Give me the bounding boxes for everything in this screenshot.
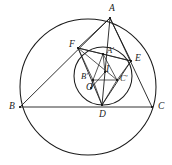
chord-A-F — [78, 18, 110, 48]
point-c — [151, 106, 153, 108]
label-ap: A' — [107, 46, 114, 55]
label-e: E — [135, 54, 141, 64]
point-d — [101, 104, 103, 106]
point-cp — [116, 79, 118, 81]
point-b — [19, 106, 21, 108]
point-ap — [102, 53, 104, 55]
cevian-A-D — [102, 18, 110, 105]
label-c: C — [158, 102, 164, 112]
point-e — [130, 60, 132, 62]
label-o: O — [86, 83, 93, 93]
label-a: A — [109, 4, 115, 14]
point-bp — [92, 79, 94, 81]
label-f: F — [69, 40, 75, 50]
geometry-figure: ABCDEFA'B'C'IO — [0, 0, 172, 165]
side-AB — [20, 18, 110, 107]
label-d: D — [99, 110, 106, 120]
label-i: I — [106, 65, 109, 75]
point-f — [77, 47, 79, 49]
point-a — [109, 17, 111, 19]
label-b: B — [9, 102, 15, 112]
points-layer — [19, 17, 153, 108]
label-cp: C' — [120, 74, 127, 83]
segments-layer — [20, 18, 152, 107]
label-bp: B' — [81, 72, 88, 81]
